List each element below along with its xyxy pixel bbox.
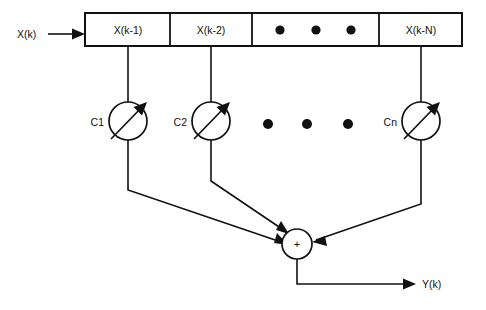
box-ellipsis-dot-1	[275, 25, 284, 34]
box-ellipsis-dot-3	[346, 25, 355, 34]
gain-cn-group	[402, 102, 440, 140]
c2-to-summer-wire	[211, 140, 285, 231]
fir-filter-diagram	[0, 0, 486, 310]
gain-ellipsis-dot-1	[263, 119, 273, 129]
box-ellipsis-dot-2	[311, 25, 320, 34]
cn-summer-arrow-icon	[312, 236, 327, 246]
gain-c2-group	[192, 102, 230, 140]
tap-label-2: X(k-2)	[197, 24, 226, 36]
output-label: Y(k)	[422, 278, 441, 290]
cn-to-summer-wire	[316, 140, 421, 240]
tap-drop-wires	[128, 46, 421, 102]
output-wire-group	[297, 259, 416, 290]
gain-c1-group	[109, 102, 147, 140]
tap-label-n: X(k-N)	[406, 24, 436, 36]
output-wire	[297, 259, 410, 284]
gain-label-c2: C2	[174, 116, 187, 128]
c2-to-summer-wire-group	[211, 140, 289, 234]
gain-ellipsis-dot-2	[302, 119, 312, 129]
gain-row-ellipsis-dots	[263, 119, 353, 129]
gain-ellipsis-dot-3	[343, 119, 353, 129]
diagram-canvas: X(k) X(k-1) X(k-2) X(k-N) C1 C2 Cn + Y(k…	[0, 0, 486, 310]
tap-label-1: X(k-1)	[114, 24, 143, 36]
input-wire-group	[48, 29, 85, 40]
c1-to-summer-wire-group	[128, 140, 288, 245]
cn-to-summer-wire-group	[312, 140, 421, 246]
input-arrow-icon	[72, 29, 85, 40]
output-arrow-icon	[403, 279, 416, 290]
input-label: X(k)	[17, 28, 36, 40]
summing-junction-label: +	[294, 239, 300, 250]
gain-label-cn: Cn	[384, 116, 397, 128]
gain-label-c1: C1	[91, 116, 104, 128]
c1-to-summer-wire	[128, 140, 284, 243]
